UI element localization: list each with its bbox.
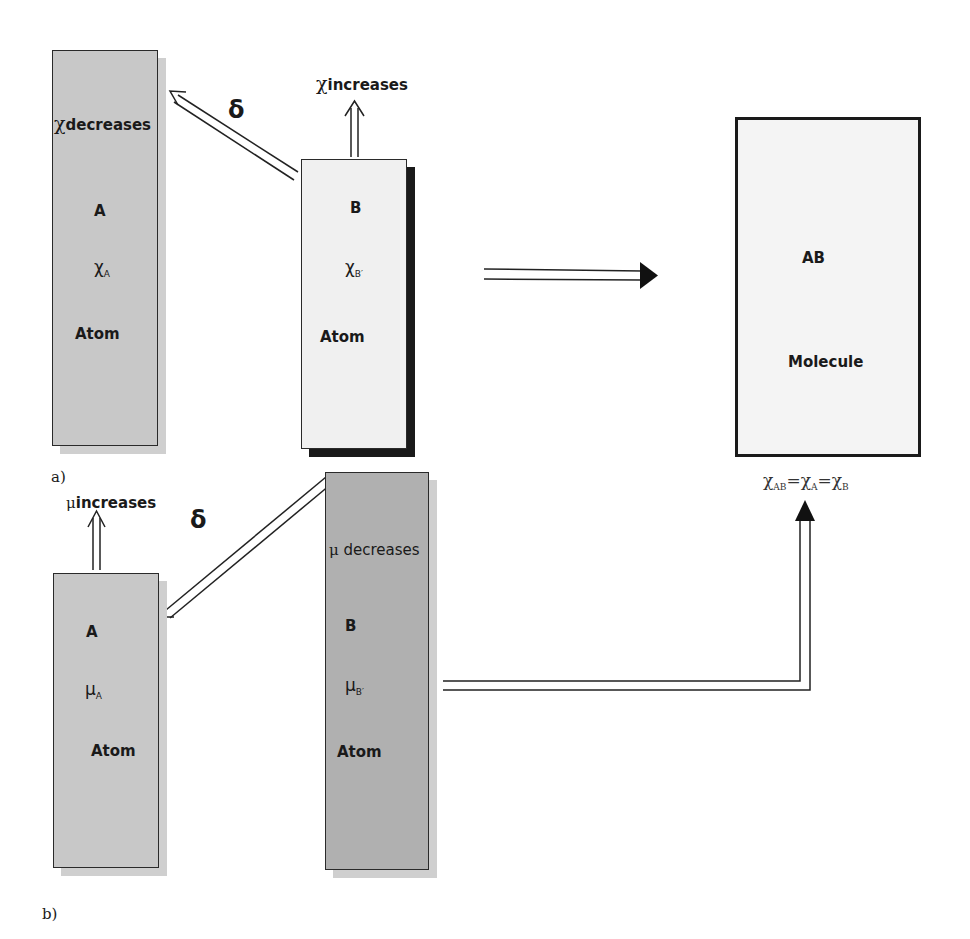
atom-b-mu: μB′ xyxy=(345,675,364,697)
chi-symbol: χ xyxy=(54,112,66,134)
atom-a-name: A xyxy=(94,202,106,220)
atom-a-chi: χA xyxy=(94,257,110,279)
mu-decreases-label: μ decreases xyxy=(329,541,420,559)
electronegativity-equalization-equation: χAB=χA=χB xyxy=(763,470,849,492)
atom-a-box-a xyxy=(52,50,158,446)
chi-decreases-label: χdecreases xyxy=(54,112,151,134)
atom-a-box-b xyxy=(53,573,159,868)
atom-b-type: Atom xyxy=(320,328,365,346)
delta-label-a: δ xyxy=(228,96,245,124)
mu-increases-label: μincreases xyxy=(66,494,156,512)
panel-b-label: b) xyxy=(42,905,57,923)
atom-b-chi: χB′ xyxy=(345,257,363,279)
atom-a-name-b: A xyxy=(86,623,98,641)
atom-b-name: B xyxy=(350,199,361,217)
chi-increases-label: χincreases xyxy=(316,72,408,94)
chi-increases-arrow-icon xyxy=(345,101,364,157)
change-label: decreases xyxy=(66,116,152,134)
molecule-name: AB xyxy=(802,249,825,267)
delta-label-b: δ xyxy=(190,506,207,534)
molecule-type: Molecule xyxy=(788,353,863,371)
atom-a-type-b: Atom xyxy=(91,742,136,760)
atom-a-mu: μA xyxy=(85,679,102,701)
atom-b-name-b: B xyxy=(345,617,356,635)
molecule-box xyxy=(735,117,921,457)
atom-b-type-b: Atom xyxy=(337,743,382,761)
atom-b-box-b xyxy=(325,472,429,870)
panel-a-label: a) xyxy=(51,468,66,486)
reaction-arrowhead-icon xyxy=(640,262,658,289)
reaction-arrow-icon xyxy=(484,269,642,280)
equalization-arrow-icon xyxy=(443,514,810,690)
equalization-arrowhead-icon xyxy=(795,500,815,521)
mu-increases-arrow-icon xyxy=(88,511,105,570)
delta-arrow-b-icon xyxy=(158,477,330,618)
atom-a-type: Atom xyxy=(75,325,120,343)
